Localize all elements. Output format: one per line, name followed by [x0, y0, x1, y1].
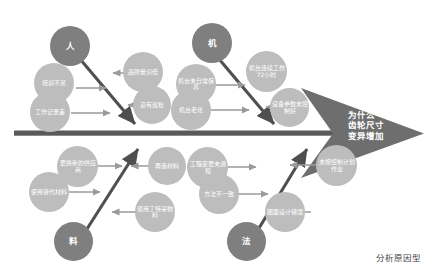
- diagram-caption: 分析原因型: [376, 251, 421, 263]
- cause-bubble-ji-72h-run[interactable]: 机台连续工作72小时: [246, 51, 287, 92]
- cause-bubble-liao-remade-material[interactable]: 再造材料: [148, 147, 186, 185]
- category-bubble-liao[interactable]: 料: [54, 222, 93, 261]
- spine-bar: [14, 131, 340, 136]
- problem-statement-text: 为什么 齿轮尺寸 变异增加: [348, 110, 424, 141]
- cause-bubble-ji-aging[interactable]: 机台老化: [171, 90, 211, 130]
- cause-bubble-fa-no-control-plan[interactable]: 未按控制计划作业: [316, 145, 357, 186]
- cause-bubble-fa-drawing-error[interactable]: 图面设计错误: [265, 192, 305, 232]
- cause-bubble-ren-records[interactable]: 工作记录差: [30, 92, 70, 132]
- category-bubble-fa[interactable]: 法: [227, 222, 266, 261]
- fishbone-diagram-canvas: 人 机 料 法 培训不足 工作记录差 品牌量识低 没有巡检 机台未日常保养 机台…: [0, 0, 429, 273]
- category-bubble-ren[interactable]: 人: [50, 26, 90, 66]
- cause-bubble-fa-inconsistent-method[interactable]: 方法不一致: [199, 174, 239, 214]
- cause-bubble-ji-params-uncontrolled[interactable]: 设备参数未控制好: [270, 88, 309, 127]
- cause-bubble-liao-substitute[interactable]: 使用替代材料: [29, 172, 69, 212]
- category-bubble-ji[interactable]: 机: [192, 23, 232, 63]
- cause-bubble-liao-special-accept[interactable]: 使用了特采物料: [135, 192, 175, 232]
- cause-bubble-ren-no-patrol[interactable]: 没有巡检: [133, 86, 171, 124]
